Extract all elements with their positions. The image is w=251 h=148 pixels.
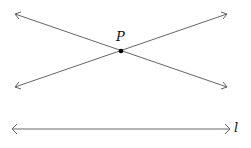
lines-svg (0, 0, 251, 148)
line-l-label: l (234, 120, 238, 135)
diagram-canvas: P l (0, 0, 251, 148)
point-p-dot (119, 49, 124, 54)
point-p-label: P (116, 29, 125, 44)
